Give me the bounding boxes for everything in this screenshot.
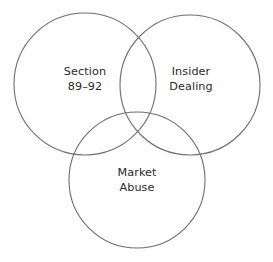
venn-circles-canvas [0, 0, 273, 262]
venn-circle-section-89-92 [14, 13, 156, 155]
venn-diagram-figure: Section 89–92 Insider Dealing Market Abu… [0, 0, 273, 262]
venn-circle-insider-dealing [120, 15, 260, 155]
